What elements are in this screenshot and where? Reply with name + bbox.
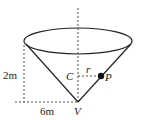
height-label: 2m xyxy=(3,69,18,81)
radius-label: 6m xyxy=(40,105,55,117)
point-label: P xyxy=(104,71,112,83)
cone-diagram: 2m 6m C r P V xyxy=(0,0,144,120)
center-label: C xyxy=(66,70,74,82)
r-label: r xyxy=(86,63,91,75)
point-p-marker xyxy=(98,73,104,79)
vertex-label: V xyxy=(74,105,82,117)
